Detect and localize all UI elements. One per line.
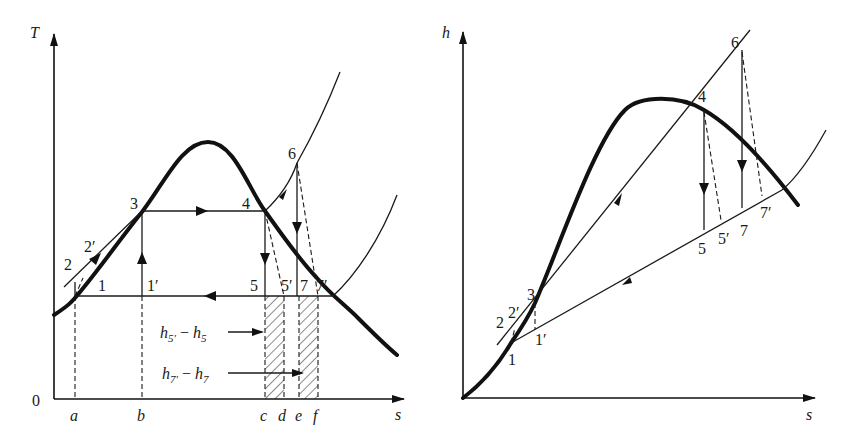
saturation-dome (54, 142, 397, 355)
arrow-left-icon (204, 291, 216, 301)
tick-c: c (260, 407, 267, 424)
point-1-prime: 1′ (147, 277, 159, 294)
point-5-prime-hs: 5′ (718, 230, 730, 247)
isobar-curve-hs (782, 130, 826, 190)
point-5: 5 (250, 277, 258, 294)
point-2-hs: 2 (496, 314, 504, 331)
arrow-right-icon (196, 206, 208, 216)
point-1: 1 (98, 277, 106, 294)
point-3-hs: 3 (527, 286, 535, 303)
isobar-curve-right (333, 195, 397, 296)
tick-f: f (313, 407, 320, 425)
point-5-prime: 5′ (281, 277, 293, 294)
hs-diagram: h s 1 1′ 2 2′ 3 4 5 5′ 6 7 7′ (442, 24, 826, 423)
annotation-h5: h5′ − h5 (160, 324, 207, 344)
tick-e: e (295, 407, 302, 424)
point-2-prime: 2′ (84, 238, 96, 255)
point-2: 2 (64, 256, 72, 273)
point-1-hs: 1 (508, 351, 516, 368)
origin-label: 0 (32, 392, 40, 409)
arrow-up-icon (137, 252, 147, 264)
dashed-4-5prime-hs (704, 112, 721, 220)
point-6: 6 (288, 145, 296, 162)
tick-a: a (70, 407, 78, 424)
point-4-hs: 4 (698, 88, 706, 105)
s-axis-label: s (395, 406, 401, 423)
point-7-prime: 7′ (316, 277, 328, 294)
hatched-area-ef (299, 296, 318, 399)
ts-diagram: T 0 s a b c d e f 1 1′ 2 2′ 3 4 5 5′ 6 7… (30, 24, 404, 425)
point-3: 3 (130, 195, 138, 212)
arrow-down-icon (260, 253, 270, 265)
annotation-h7: h7′ − h7 (162, 365, 209, 385)
hatched-area-cd (265, 296, 284, 399)
point-2-prime-hs: 2′ (508, 304, 520, 321)
tick-d: d (278, 407, 287, 424)
arrow-down-icon (737, 160, 747, 172)
figure-canvas: T 0 s a b c d e f 1 1′ 2 2′ 3 4 5 5′ 6 7… (0, 0, 844, 447)
t-axis-label: T (30, 24, 40, 41)
arrow-down-icon (699, 183, 709, 195)
superheat-curve (265, 72, 340, 211)
compression-line (64, 211, 142, 287)
point-7-prime-hs: 7′ (760, 204, 772, 221)
point-7-hs: 7 (740, 222, 748, 239)
s-axis-label-right: s (806, 406, 812, 423)
point-1-prime-hs: 1′ (535, 331, 547, 348)
dashed-6-7prime-hs (742, 52, 762, 196)
h-axis-label: h (442, 24, 450, 41)
point-7: 7 (300, 277, 308, 294)
arrow-down-icon (292, 222, 302, 234)
arrow-right-icon (252, 328, 264, 336)
tick-b: b (137, 407, 145, 424)
point-6-hs: 6 (731, 34, 739, 51)
point-4: 4 (242, 195, 250, 212)
point-5-hs: 5 (698, 240, 706, 257)
